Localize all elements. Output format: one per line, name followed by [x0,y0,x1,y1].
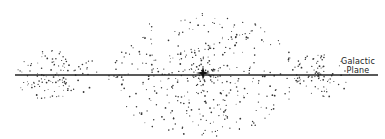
star-dot [264,118,265,119]
star-dot [175,96,176,97]
star-dot [60,51,61,52]
star-dot [146,89,147,90]
star-dot [139,54,140,55]
star-dot [65,83,66,84]
star-dot [44,97,45,98]
star-dot [289,87,290,88]
star-dot [224,100,225,101]
star-dot [121,52,123,54]
star-dot [59,86,60,87]
star-dot [218,70,219,71]
star-dot [314,76,315,77]
star-dot [165,107,167,109]
star-dot [236,34,238,36]
star-dot [129,54,130,55]
star-dot [328,80,329,81]
star-dot [321,55,323,57]
star-dot [237,80,238,81]
star-dot [323,96,324,97]
star-dot [263,41,264,42]
star-dot [223,90,224,91]
star-dot [250,66,251,67]
star-dot [170,112,171,113]
star-dot [121,62,122,63]
star-dot [208,31,209,32]
star-dot [116,60,118,62]
star-dot [318,78,320,80]
star-dot [156,92,158,94]
star-dot [77,79,79,81]
star-dot [52,58,54,60]
star-dot [258,93,259,94]
star-dot [197,93,198,94]
star-dot [242,52,243,53]
star-dot [196,92,197,93]
star-dot [180,20,181,21]
star-dot [343,88,345,90]
star-dot [172,85,173,86]
star-dot [153,68,154,69]
star-dot [238,78,240,80]
star-dot [31,84,32,85]
star-dot [184,50,185,51]
star-dot [53,76,55,78]
star-dot [301,67,303,69]
star-dot [89,87,91,89]
star-dot [227,18,228,19]
star-dot [46,82,48,84]
star-dot [168,129,170,131]
star-dot [246,39,247,40]
star-dot [239,118,241,120]
star-dot [189,115,190,116]
star-dot [63,70,64,71]
star-dot [62,96,63,97]
star-dot [194,52,196,54]
star-dot [187,78,188,79]
star-dot [315,86,316,87]
star-dot [324,54,325,55]
galactic-diagram: Galactic Plane [0,0,385,139]
star-dot [201,134,202,135]
star-dot [323,86,324,87]
star-dot [160,81,161,82]
star-dot [185,56,186,57]
star-dot [53,61,54,62]
star-dot [204,130,205,131]
star-dot [233,52,234,53]
star-dot [184,69,185,70]
star-dot [246,36,248,38]
star-dot [236,86,238,88]
star-dot [188,102,190,104]
star-dot [189,69,190,70]
star-dot [275,90,277,92]
star-dot [63,90,64,91]
star-dot [326,89,327,90]
star-dot [157,68,158,69]
star-dot [149,55,151,57]
label-line-1: Galactic [336,57,380,66]
star-dot [139,112,140,113]
star-dot [189,99,190,100]
star-dot [230,76,231,77]
star-dot [68,64,70,66]
star-dot [142,37,143,38]
star-dot [320,57,321,58]
star-dot [266,107,268,109]
star-dot [311,93,312,94]
star-dot [318,72,319,73]
star-dot [175,123,176,124]
star-dot [191,109,193,111]
star-dot [299,80,300,81]
star-dot [314,69,315,70]
star-dot [300,79,301,80]
star-dot [320,80,321,81]
star-dot [213,121,214,122]
star-dot [151,64,153,66]
star-dot [55,58,57,60]
star-dot [253,62,255,64]
star-dot [260,27,261,28]
star-dot [202,84,204,86]
star-dot [213,107,214,108]
star-dot [202,115,204,117]
star-dot [321,59,323,61]
